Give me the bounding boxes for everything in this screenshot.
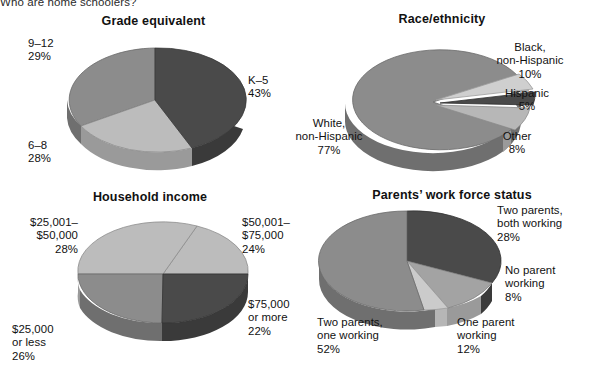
- pie-label-two-parents-one-working: Two parents, one working 52%: [317, 316, 427, 356]
- figure-heading: Who are home schoolers?: [0, 0, 137, 8]
- pie-label-25000-or-less: $25,000 or less 26%: [12, 323, 82, 363]
- chart-panel-grade-equivalent: Grade equivalent K–5 43% 6–8 28% 9–12 29…: [0, 14, 307, 190]
- pie-label-two-parents-both-working: Two parents, both working 28%: [497, 204, 615, 244]
- pie-label-50001-75000: $50,001– $75,000 24%: [242, 216, 312, 256]
- chart-panel-household-income: Household income $50,001– $75,000 24% $7…: [0, 190, 307, 390]
- chart-panel-parents-work-force-status: Parents’ work force status Two parents, …: [307, 188, 615, 390]
- pie-label-white-non-hispanic: White, non-Hispanic 77%: [277, 117, 381, 157]
- slice-side-one-parent: [435, 308, 447, 327]
- pie-body-household-income: [78, 222, 249, 341]
- figure-root: Who are home schoolers? Grade equivalent…: [0, 0, 615, 390]
- pie-race-ethnicity: [307, 12, 615, 190]
- chart-panel-race-ethnicity: Race/ethnicity White, non-Hispanic 77% B…: [307, 12, 615, 190]
- pie-label-black-non-hispanic: Black, non-Hispanic 10%: [475, 41, 585, 81]
- pie-label-no-parent-working: No parent working 8%: [505, 264, 595, 304]
- pie-label-other: Other 8%: [487, 130, 547, 157]
- pie-label-75000-or-more: $75,000 or more 22%: [248, 298, 312, 338]
- pie-label-k5: K–5 43%: [248, 74, 306, 101]
- pie-label-hispanic: Hispanic 5%: [487, 87, 567, 114]
- pie-label-25001-50000: $25,001– $50,000 28%: [0, 216, 78, 256]
- pie-svg-race-ethnicity: [307, 12, 615, 190]
- pie-body-parents-work-force-status: [318, 211, 501, 330]
- pie-label-9-12: 9–12 29%: [28, 37, 98, 64]
- pie-label-6-8: 6–8 28%: [28, 139, 98, 166]
- pie-label-one-parent-working: One parent working 12%: [457, 316, 557, 356]
